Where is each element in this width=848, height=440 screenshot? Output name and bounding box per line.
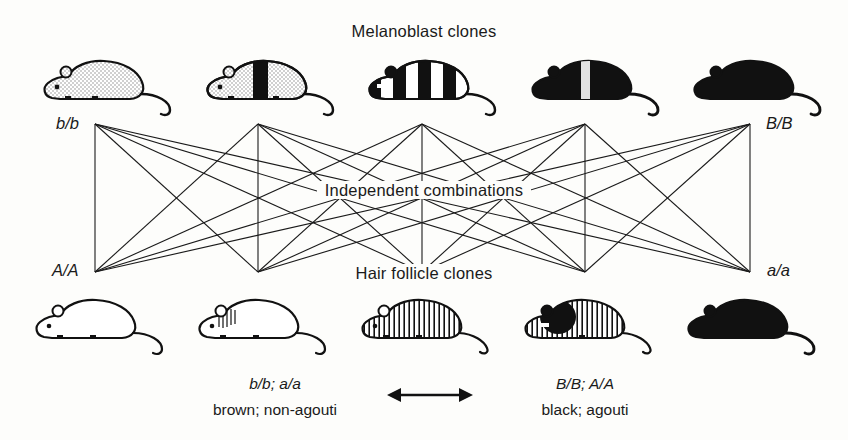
hair-follicle-clones-title: Hair follicle clones [0,264,848,283]
mouse-follicle-4 [511,291,671,357]
mouse-melanoblast-4 [518,52,678,118]
caption-left: b/b; a/a brown; non-agouti [145,371,405,422]
caption-left-phenotype: brown; non-agouti [145,397,405,423]
mouse-melanoblast-5 [680,52,840,118]
mouse-follicle-3 [348,291,508,357]
mouse-melanoblast-3 [355,52,515,118]
caption-right: B/B; A/A black; agouti [455,371,715,422]
melanoblast-clones-title: Melanoblast clones [0,22,848,41]
corner-label-top-left: b/b [56,114,79,133]
mouse-follicle-2 [185,291,345,357]
mouse-melanoblast-1 [30,52,190,118]
independent-combinations-label: Independent combinations [0,181,848,200]
mouse-melanoblast-2 [193,52,353,118]
figure-canvas: Melanoblast clones [0,0,848,440]
caption-right-genotype: B/B; A/A [455,371,715,397]
mouse-follicle-5 [674,291,834,357]
mouse-follicle-1 [22,291,182,357]
corner-label-top-right: B/B [766,114,793,133]
caption-right-phenotype: black; agouti [455,397,715,423]
caption-left-genotype: b/b; a/a [145,371,405,397]
